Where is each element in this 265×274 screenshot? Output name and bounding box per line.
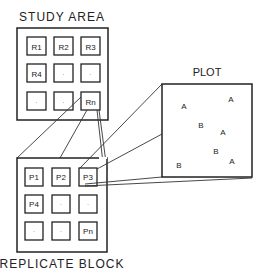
cell-label: R4 [31, 70, 42, 79]
cell-label: P1 [29, 173, 39, 182]
cell-label: · [60, 201, 62, 207]
cell-label: Pn [83, 227, 93, 236]
cell-label: · [63, 99, 65, 105]
treatment-a: A [181, 102, 187, 111]
replicate-block: P1 P2 P3 P4 · · · · Pn REPLICATE BLOCK [0, 158, 124, 271]
cell-label: R1 [31, 43, 42, 52]
cell-label: · [87, 201, 89, 207]
treatment-a: A [228, 95, 234, 104]
diagram: STUDY AREA R1 R2 R3 R4 · · · · Rn [0, 0, 265, 274]
cell-label: R3 [85, 43, 96, 52]
treatment-a: A [229, 157, 235, 166]
replicate-block-title: REPLICATE BLOCK [0, 257, 124, 271]
treatment-b: B [213, 147, 218, 156]
treatment-a: A [220, 128, 226, 137]
study-area-grid: R1 R2 R3 R4 · · · · Rn [27, 37, 100, 110]
study-area: STUDY AREA R1 R2 R3 R4 · · · · Rn [17, 10, 108, 120]
cell-label: · [90, 71, 92, 77]
treatment-b: B [198, 121, 203, 130]
cell-label: · [36, 99, 38, 105]
treatment-b: B [176, 161, 181, 170]
cell-label: Rn [85, 98, 95, 107]
cell-label: P2 [56, 173, 66, 182]
cell-label: · [63, 71, 65, 77]
plot-title: PLOT [193, 66, 222, 78]
cell-label: · [60, 228, 62, 234]
cell-label: P4 [29, 200, 39, 209]
study-area-title: STUDY AREA [19, 10, 105, 24]
cell-label: · [33, 228, 35, 234]
cell-label: R2 [58, 43, 69, 52]
cell-label: P3 [83, 173, 93, 182]
plot: PLOT A A B A B A B [162, 66, 252, 177]
